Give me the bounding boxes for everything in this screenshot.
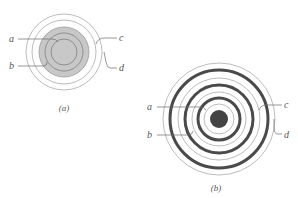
panel-a-gray-disk <box>39 27 89 77</box>
panel-b-label-b: b <box>147 129 152 140</box>
panel-a-label-a: a <box>9 33 14 44</box>
panel-b-leader-c <box>259 105 282 110</box>
panel-b-label-c: c <box>284 99 289 110</box>
panel-a-label-d: d <box>119 62 125 73</box>
panel-b-caption: (b) <box>211 183 222 193</box>
panel-a-leader-d <box>104 52 117 68</box>
panel-b-center-dot <box>210 110 228 128</box>
panel-b: a b c d (b) <box>147 63 290 193</box>
panel-b-label-d: d <box>284 129 290 140</box>
panel-a-label-b: b <box>9 60 14 71</box>
panel-a-label-c: c <box>119 32 124 43</box>
panel-a-caption: (a) <box>59 103 70 113</box>
panel-b-label-a: a <box>147 101 152 112</box>
concentric-rings-figure: a b c d (a) a b c d (b) <box>0 0 298 198</box>
panel-a-leader-c <box>96 38 117 44</box>
panel-a: a b c d (a) <box>9 14 125 113</box>
